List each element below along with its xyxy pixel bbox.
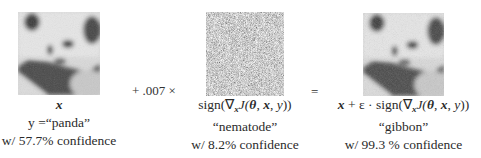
adversarial-class: “gibbon”: [326, 118, 481, 136]
perturbation-confidence: w/ 8.2% confidence: [180, 136, 310, 154]
adversarial-panda-image: [363, 13, 444, 96]
noise-image: [206, 12, 284, 96]
adversarial-caption: x + ε · sign(∇xJ(θ, x, y)) “gibbon” w/ 9…: [326, 96, 481, 154]
original-label: x: [0, 96, 118, 114]
panda-image: [18, 12, 100, 95]
panda-photo-icon: [18, 12, 100, 95]
perturbation-caption: sign(∇xJ(θ, x, y)) “nematode” w/ 8.2% co…: [180, 96, 310, 154]
adversarial-label: x + ε · sign(∇xJ(θ, x, y)): [326, 96, 481, 118]
original-confidence: w/ 57.7% confidence: [0, 132, 118, 150]
equals-operator: =: [311, 84, 318, 100]
original-caption: x y =“panda” w/ 57.7% confidence: [0, 96, 118, 150]
perturbation-class: “nematode”: [180, 118, 310, 136]
adversarial-confidence: w/ 99.3 % confidence: [326, 136, 481, 154]
perturbation-label: sign(∇xJ(θ, x, y)): [180, 96, 310, 118]
noise-pattern-icon: [206, 12, 284, 96]
original-class: y =“panda”: [0, 114, 118, 132]
panda-photo-perturbed-icon: [363, 13, 444, 96]
plus-scale-operator: + .007 ×: [132, 83, 176, 99]
